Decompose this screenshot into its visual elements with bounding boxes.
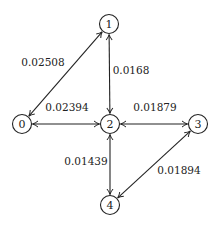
edge-weight-label: 0.01894 <box>157 164 201 176</box>
node-1: 1 <box>100 15 119 34</box>
edge-1-2-bidirectional-arrow-icon <box>109 34 110 113</box>
edge-weight-label: 0.01439 <box>64 155 107 167</box>
edge-weight-label: 0.02508 <box>21 56 64 68</box>
graph-diagram: 01234 0.025080.01680.023940.018790.01439… <box>0 0 222 231</box>
node-label: 0 <box>19 118 26 131</box>
edge-weight-label: 0.01879 <box>133 101 176 113</box>
edge-weight-label: 0.02394 <box>45 101 89 113</box>
edge-weight-label: 0.0168 <box>113 64 150 76</box>
node-label: 4 <box>107 199 114 212</box>
node-label: 2 <box>107 118 114 131</box>
node-0: 0 <box>13 115 32 134</box>
node-3: 3 <box>189 115 208 134</box>
node-2: 2 <box>101 115 120 134</box>
node-4: 4 <box>101 196 120 215</box>
node-label: 3 <box>195 118 202 131</box>
node-label: 1 <box>106 18 113 31</box>
